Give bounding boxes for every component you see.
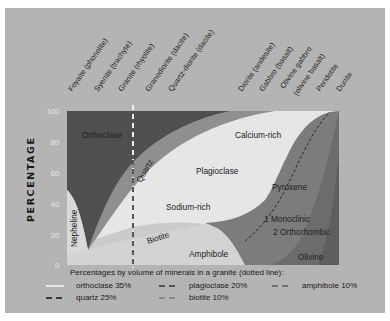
sodium-rich-label: Sodium-rich: [166, 202, 211, 212]
rock-label-diorite: Diorite (andesite): [236, 40, 277, 93]
monoclinic-label: 1 Monoclinic: [264, 214, 310, 224]
y-tick-100: 100: [47, 107, 59, 116]
y-tick-80: 80: [51, 138, 59, 147]
plagioclase-label: Plagioclase: [196, 166, 239, 176]
solid-line-swatch-icon: [46, 285, 64, 287]
dashed-line-swatch-icon: [272, 285, 290, 287]
dashed-line-swatch-icon: [46, 297, 64, 299]
orthoclase-label: Orthoclase: [82, 130, 123, 140]
y-tick-20: 20: [51, 231, 59, 240]
y-tick-0: 0: [55, 261, 59, 270]
legend-item-plagioclase: plagioclase 20%: [159, 281, 247, 290]
rock-label-dunite: Dunite: [334, 70, 354, 93]
orthorhombic-label: 2 Orthorhombic: [273, 227, 330, 237]
y-tick-40: 40: [51, 200, 59, 209]
dashed-line-swatch-icon: [159, 297, 177, 299]
pyroxene-label: Pyroxene: [272, 182, 307, 192]
legend-item-amphibole: amphibole 10%: [272, 281, 357, 290]
legend-item-quartz: quartz 25%: [46, 293, 116, 302]
legend-title: Percentages by volume of minerals in a g…: [70, 268, 283, 277]
rock-label-quartz-diorite: Quartz-diorite (dacite): [166, 27, 216, 93]
y-axis-label: PERCENTAGE: [25, 136, 36, 222]
olivine-label: Olivine: [298, 252, 324, 262]
calcium-rich-label: Calcium-rich: [235, 130, 281, 140]
dashed-line-swatch-icon: [159, 285, 177, 287]
legend-item-biotite: biotite 10%: [159, 293, 229, 302]
legend-item-orthoclase: orthoclase 35%: [46, 281, 131, 290]
nepheline-label: Nepheline: [69, 209, 79, 247]
amphibole-label: Amphibole: [189, 249, 229, 259]
y-tick-60: 60: [51, 169, 59, 178]
